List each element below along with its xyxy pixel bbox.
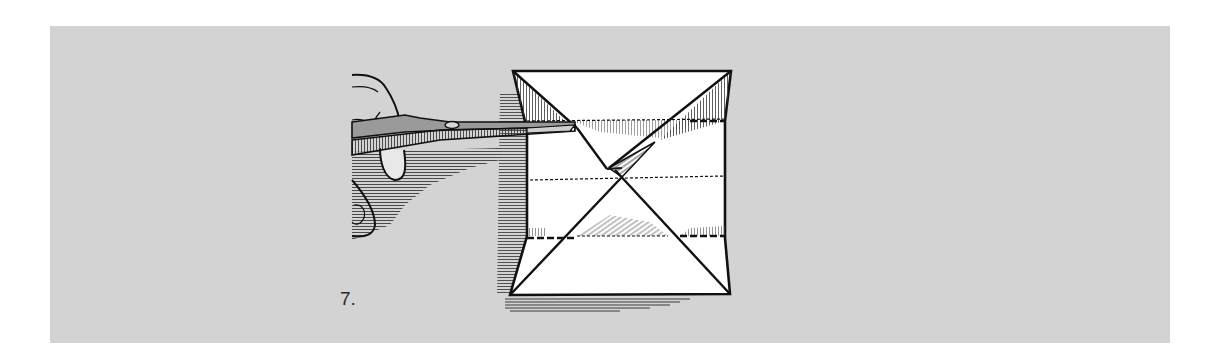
folded-paper bbox=[510, 71, 731, 295]
scissors-cutting-paper-illustration bbox=[0, 0, 1219, 355]
paper-shadow-bottom bbox=[505, 299, 690, 311]
step-number: 7. bbox=[340, 288, 356, 310]
pivot-screw bbox=[445, 122, 459, 129]
